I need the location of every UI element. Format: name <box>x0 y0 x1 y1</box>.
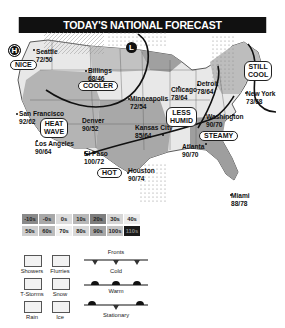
flurries-icon <box>52 255 70 267</box>
callout-heat-wave: HEATWAVE <box>40 118 68 138</box>
warm-front-icon <box>84 278 148 288</box>
tstorms-icon <box>24 278 42 290</box>
city-billings: Billings68/46 <box>88 67 112 82</box>
callout-still-cool: STILLCOOL <box>244 61 272 81</box>
low-pressure-icon: L <box>126 42 137 53</box>
callout-less-humid: LESSHUMID <box>166 107 197 127</box>
temp-band: 60s <box>39 226 55 236</box>
callout-steamy: STEAMY <box>199 131 238 141</box>
temp-band: 70s <box>56 226 72 236</box>
callout-cooler: COOLER <box>78 81 118 91</box>
callout-hot: HOT <box>97 168 122 178</box>
snow-icon <box>52 278 70 290</box>
fronts-title: Fronts <box>86 249 146 255</box>
precip-label: T-Storms <box>18 291 46 297</box>
city-washington: Washington90/70 <box>206 113 243 128</box>
front-label: Cold <box>86 268 146 274</box>
city-chicago: Chicago78/64 <box>171 86 197 101</box>
city-kansas-city: Kansas City85/64 <box>135 124 173 139</box>
callout-nice: NICE <box>10 60 37 70</box>
ice-icon <box>52 301 70 313</box>
city-detroit: Detroit78/64 <box>197 80 218 95</box>
temp-band: -0s <box>39 214 55 224</box>
precip-label: Snow <box>46 291 74 297</box>
temp-band: 30s <box>107 214 123 224</box>
front-label: Stationary <box>86 312 146 318</box>
city-los-angeles: Los Angeles90/64 <box>35 140 74 155</box>
city-houston: Houston90/74 <box>128 167 155 182</box>
temp-band: 20s <box>90 214 106 224</box>
precip-label: Flurries <box>46 268 74 274</box>
temp-band: 40s <box>124 214 140 224</box>
temp-band: 80s <box>73 226 89 236</box>
temp-band: 100s <box>107 226 123 236</box>
temp-band: 0s <box>56 214 72 224</box>
city-seattle: Seattle72/50 <box>36 48 58 63</box>
showers-icon <box>24 255 42 267</box>
city-miami: Miami88/78 <box>231 192 250 207</box>
city-minneapolis: Minneapolis72/54 <box>130 95 168 110</box>
precip-label: Ice <box>46 314 74 320</box>
city-new-york: New York73/68 <box>246 90 275 105</box>
city-el-paso: El Paso100/72 <box>84 150 108 165</box>
temp-band: 10s <box>73 214 89 224</box>
temp-band: 50s <box>22 226 38 236</box>
temp-band: 110s <box>124 226 140 236</box>
precip-label: Rain <box>18 314 46 320</box>
front-label: Warm <box>86 288 146 294</box>
temp-band: 90s <box>90 226 106 236</box>
precip-label: Showers <box>18 268 46 274</box>
rain-icon <box>24 301 42 313</box>
city-atlanta: Atlanta90/70 <box>182 143 204 158</box>
cold-front-icon <box>84 258 148 268</box>
stationary-front-icon <box>84 300 148 312</box>
temp-band: -10s <box>22 214 38 224</box>
city-denver: Denver90/52 <box>82 117 104 132</box>
high-pressure-icon: H <box>8 44 21 57</box>
